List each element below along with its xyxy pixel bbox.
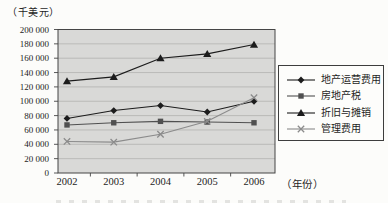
- x-tick-label: 2004: [141, 176, 181, 187]
- x-tick-label: 2003: [94, 176, 134, 187]
- x-axis-unit-label: （年份）: [281, 176, 323, 191]
- cropped-caption-remnant: [56, 200, 346, 203]
- x-tick-label: 2006: [234, 176, 274, 187]
- legend-row: 折旧与摊销: [286, 105, 381, 121]
- chart-figure: （千美元） 020 00040 00060 00080 000100 00012…: [0, 0, 388, 203]
- square-legend-glyph: [286, 91, 316, 101]
- legend-row: 房地产税: [286, 88, 381, 104]
- legend-label: 地产运营费用: [321, 74, 381, 86]
- diamond-marker: [298, 76, 305, 83]
- legend-label: 管理费用: [321, 123, 361, 135]
- legend-label: 折旧与摊销: [321, 107, 371, 119]
- x-tick-label: 2005: [187, 176, 227, 187]
- legend-row: 管理费用: [286, 121, 381, 137]
- diamond-legend-glyph: [286, 75, 316, 85]
- square-marker: [64, 122, 69, 127]
- square-marker: [251, 120, 256, 125]
- x-tick-label: 2002: [47, 176, 87, 187]
- legend-label: 房地产税: [321, 90, 361, 102]
- chart-legend: 地产运营费用房地产税折旧与摊销管理费用: [278, 65, 384, 141]
- legend-row: 地产运营费用: [286, 72, 381, 88]
- square-marker: [111, 120, 116, 125]
- triangle-legend-glyph: [286, 108, 316, 118]
- square-marker: [298, 93, 303, 98]
- x-legend-glyph: [286, 124, 316, 134]
- square-marker: [158, 119, 163, 124]
